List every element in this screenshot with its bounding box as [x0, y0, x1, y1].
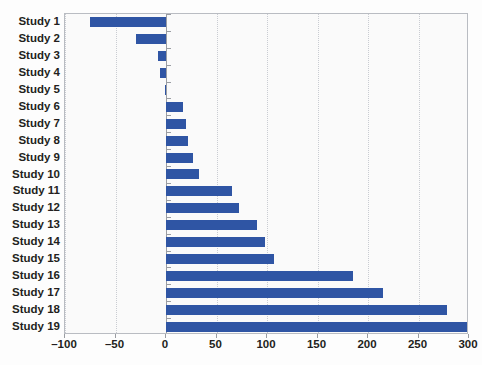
category-label-11: Study 11 — [0, 185, 60, 195]
y-tick — [166, 48, 171, 49]
bar-study-16 — [166, 271, 353, 281]
category-label-16: Study 16 — [0, 270, 60, 280]
bar-row — [65, 234, 467, 251]
y-tick — [166, 115, 171, 116]
x-tick-label-200: 200 — [357, 338, 376, 350]
category-label-17: Study 17 — [0, 287, 60, 297]
bar-study-10 — [166, 169, 199, 179]
category-label-12: Study 12 — [0, 202, 60, 212]
bar-study-17 — [166, 288, 383, 298]
category-label-1: Study 1 — [0, 16, 60, 26]
x-tick-label--50: –50 — [105, 338, 124, 350]
category-label-7: Study 7 — [0, 118, 60, 128]
bar-row — [65, 251, 467, 268]
y-tick — [166, 31, 171, 32]
y-tick — [166, 166, 171, 167]
bar-row — [65, 82, 467, 99]
category-label-13: Study 13 — [0, 219, 60, 229]
y-tick — [166, 217, 171, 218]
category-label-2: Study 2 — [0, 33, 60, 43]
y-tick — [166, 251, 171, 252]
plot-inner — [65, 14, 467, 333]
bar-row — [65, 166, 467, 183]
x-tick-label-150: 150 — [307, 338, 326, 350]
x-tick-label-50: 50 — [209, 338, 222, 350]
bar-study-12 — [166, 203, 239, 213]
category-label-10: Study 10 — [0, 169, 60, 179]
bar-row — [65, 318, 467, 333]
y-tick — [166, 200, 171, 201]
bar-row — [65, 98, 467, 115]
y-tick — [166, 14, 171, 15]
bar-row — [65, 301, 467, 318]
bar-row — [65, 31, 467, 48]
y-tick — [166, 301, 171, 302]
y-tick — [166, 149, 171, 150]
category-label-9: Study 9 — [0, 152, 60, 162]
bar-row — [65, 267, 467, 284]
plot-area — [64, 13, 468, 334]
x-tick-label-100: 100 — [256, 338, 275, 350]
bar-row — [65, 284, 467, 301]
category-label-3: Study 3 — [0, 50, 60, 60]
y-tick — [166, 82, 171, 83]
bar-study-14 — [166, 237, 265, 247]
y-tick — [166, 65, 171, 66]
x-axis-labels: –100–50050100150200250300 — [64, 338, 468, 358]
category-label-14: Study 14 — [0, 236, 60, 246]
category-label-15: Study 15 — [0, 253, 60, 263]
bar-row — [65, 14, 467, 31]
y-axis-labels: Study 1Study 2Study 3Study 4Study 5Study… — [0, 13, 60, 334]
bar-row — [65, 65, 467, 82]
y-tick — [166, 267, 171, 268]
bar-row — [65, 115, 467, 132]
bar-study-9 — [166, 153, 193, 163]
bar-study-3 — [158, 51, 166, 61]
category-label-6: Study 6 — [0, 101, 60, 111]
bar-study-13 — [166, 220, 257, 230]
category-label-5: Study 5 — [0, 84, 60, 94]
bar-row — [65, 132, 467, 149]
category-label-8: Study 8 — [0, 135, 60, 145]
x-tick-label--100: –100 — [51, 338, 77, 350]
bar-row — [65, 217, 467, 234]
category-label-4: Study 4 — [0, 67, 60, 77]
bar-study-7 — [166, 119, 186, 129]
y-tick — [166, 318, 171, 319]
x-tick-label-250: 250 — [408, 338, 427, 350]
bar-study-4 — [160, 68, 166, 78]
x-tick-label-0: 0 — [162, 338, 168, 350]
bar-study-2 — [136, 34, 166, 44]
bar-row — [65, 48, 467, 65]
bar-row — [65, 183, 467, 200]
bar-study-19 — [166, 322, 467, 332]
y-tick — [166, 132, 171, 133]
y-tick — [166, 234, 171, 235]
x-tick-label-300: 300 — [458, 338, 477, 350]
y-tick — [166, 98, 171, 99]
bar-row — [65, 149, 467, 166]
bar-study-11 — [166, 186, 232, 196]
bar-study-8 — [166, 136, 188, 146]
category-label-18: Study 18 — [0, 304, 60, 314]
y-tick — [166, 284, 171, 285]
bar-chart: Study 1Study 2Study 3Study 4Study 5Study… — [0, 0, 482, 365]
category-label-19: Study 19 — [0, 321, 60, 331]
bar-study-6 — [166, 102, 183, 112]
y-tick — [166, 183, 171, 184]
bar-study-15 — [166, 254, 274, 264]
bar-row — [65, 200, 467, 217]
bar-study-5 — [165, 85, 167, 95]
bar-study-1 — [90, 17, 166, 27]
bar-study-18 — [166, 305, 447, 315]
